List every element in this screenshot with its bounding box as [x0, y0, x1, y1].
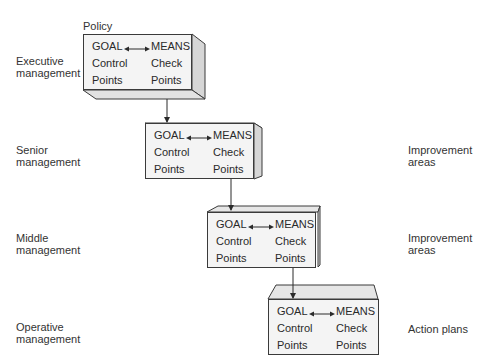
double-arrow-icon [248, 223, 274, 231]
policy-box-executive: GOAL MEANS Control Check Points Points [83, 34, 192, 90]
control-points-text: Points [277, 338, 308, 352]
policy-box-operative: GOAL MEANS Control Check Points Points [268, 299, 379, 355]
means-text: MEANS [151, 39, 190, 53]
double-arrow-icon [186, 134, 212, 142]
level-label-middle: Middle management [16, 232, 80, 256]
means-text: MEANS [336, 304, 375, 318]
goal-text: GOAL [216, 217, 247, 231]
policy-box-senior: GOAL MEANS Control Check Points Points [145, 123, 254, 179]
double-arrow-icon [124, 45, 150, 53]
check-points-text: Points [336, 338, 367, 352]
right-label-middle: Improvement areas [408, 232, 472, 256]
control-text: Control [277, 321, 312, 335]
level-label-executive: Executive management [16, 55, 80, 79]
control-text: Control [154, 145, 189, 159]
means-text: MEANS [213, 128, 252, 142]
means-text: MEANS [275, 217, 314, 231]
check-points-text: Points [213, 162, 244, 176]
check-points-text: Points [151, 73, 182, 87]
right-label-operative: Action plans [408, 323, 468, 335]
level-label-senior: Senior management [16, 144, 80, 168]
check-text: Check [151, 56, 182, 70]
goal-text: GOAL [277, 304, 308, 318]
check-points-text: Points [275, 251, 306, 265]
check-text: Check [275, 234, 306, 248]
check-text: Check [213, 145, 244, 159]
goal-text: GOAL [154, 128, 185, 142]
double-arrow-icon [309, 310, 335, 318]
right-label-senior: Improvement areas [408, 144, 472, 168]
control-text: Control [216, 234, 251, 248]
control-points-text: Points [92, 73, 123, 87]
control-text: Control [92, 56, 127, 70]
box-4-depth-faces [268, 285, 378, 299]
control-points-text: Points [154, 162, 185, 176]
level-label-operative: Operative management [16, 321, 80, 345]
policy-label: Policy [83, 20, 112, 32]
policy-box-middle: GOAL MEANS Control Check Points Points [207, 212, 316, 268]
check-text: Check [336, 321, 367, 335]
goal-text: GOAL [92, 39, 123, 53]
control-points-text: Points [216, 251, 247, 265]
